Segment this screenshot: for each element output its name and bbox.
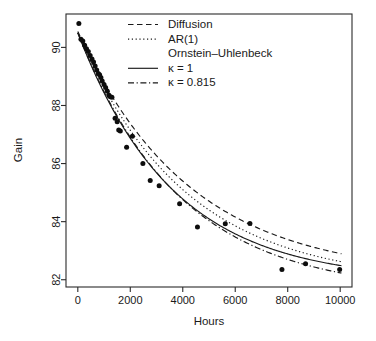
data-point: [76, 21, 81, 26]
plot-canvas: 8284868890 0200040006000800010000 Hours …: [0, 0, 376, 341]
x-axis-ticks: 0200040006000800010000: [75, 287, 356, 306]
data-point: [80, 39, 85, 44]
x-tick-label: 4000: [171, 294, 195, 306]
y-tick-label: 84: [50, 216, 62, 228]
data-point: [115, 119, 120, 124]
x-tick-label: 10000: [325, 294, 356, 306]
data-point: [223, 221, 228, 226]
y-tick-label: 86: [50, 157, 62, 169]
data-point: [177, 201, 182, 206]
curve-ar-1-: [78, 33, 342, 262]
curve-diffusion: [78, 31, 342, 253]
legend-label: κ = 0.815: [168, 76, 216, 88]
data-point: [118, 129, 123, 134]
y-axis-ticks: 8284868890: [50, 41, 66, 286]
data-point: [140, 161, 145, 166]
data-point: [247, 221, 252, 226]
data-point: [337, 267, 342, 272]
x-tick-label: 8000: [275, 294, 299, 306]
x-axis-title: Hours: [194, 315, 225, 327]
legend-label: AR(1): [168, 33, 198, 45]
data-point: [124, 145, 129, 150]
legend-label: κ = 1: [168, 62, 193, 74]
y-tick-label: 88: [50, 99, 62, 111]
legend-label: Ornstein–Uhlenbeck: [168, 47, 272, 59]
y-tick-label: 90: [50, 41, 62, 53]
legend-label: Diffusion: [168, 18, 213, 30]
y-tick-label: 82: [50, 274, 62, 286]
data-point: [279, 267, 284, 272]
data-point: [109, 95, 114, 100]
chart-legend: DiffusionAR(1)Ornstein–Uhlenbeckκ = 1κ =…: [128, 18, 272, 88]
model-curves: [78, 31, 342, 273]
data-point: [303, 261, 308, 266]
data-point: [148, 178, 153, 183]
y-axis-title: Gain: [12, 138, 24, 162]
data-point: [157, 183, 162, 188]
x-tick-label: 0: [75, 294, 81, 306]
chart-figure: 8284868890 0200040006000800010000 Hours …: [0, 0, 376, 341]
data-point: [195, 224, 200, 229]
x-tick-label: 2000: [118, 294, 142, 306]
x-tick-label: 6000: [223, 294, 247, 306]
curve-kappa-0-815: [78, 33, 342, 273]
curve-kappa-1: [78, 33, 342, 266]
data-point: [130, 134, 135, 139]
